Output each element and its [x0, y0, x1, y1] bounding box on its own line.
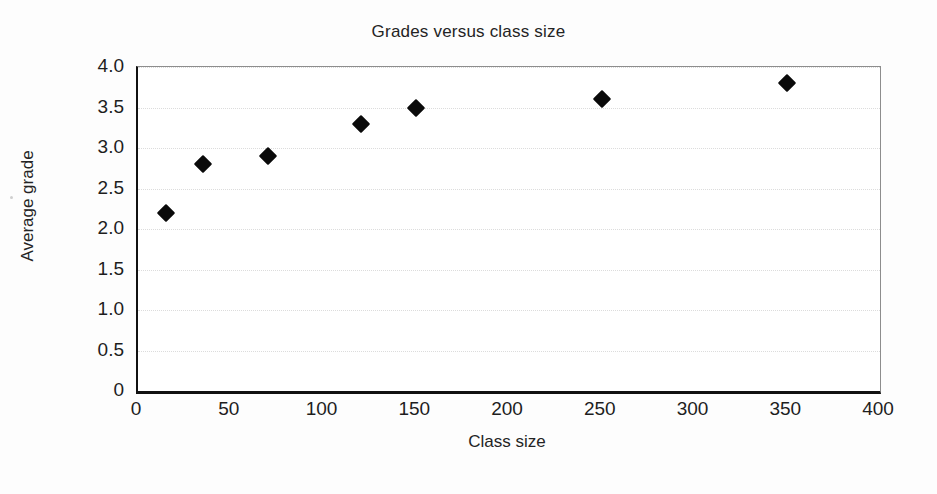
- y-tick-label: 1.0: [64, 298, 124, 320]
- x-tick-label: 0: [96, 398, 176, 420]
- data-point: [351, 114, 369, 132]
- x-tick-label: 300: [653, 398, 733, 420]
- data-point: [778, 74, 796, 92]
- gridline: [138, 310, 880, 311]
- x-tick-label: 350: [745, 398, 825, 420]
- data-point: [407, 98, 425, 116]
- y-tick-label: 2.5: [64, 177, 124, 199]
- x-tick-label: 100: [282, 398, 362, 420]
- y-tick-label: 4.0: [64, 55, 124, 77]
- gridline: [138, 351, 880, 352]
- plot-area: [136, 66, 881, 394]
- gridline: [138, 148, 880, 149]
- data-point: [194, 155, 212, 173]
- gridline: [138, 270, 880, 271]
- scan-artifact: [10, 196, 13, 199]
- x-tick-label: 400: [838, 398, 918, 420]
- y-axis-tick-labels: 00.51.01.52.02.53.03.54.0: [60, 66, 124, 390]
- chart-figure: Grades versus class size 00.51.01.52.02.…: [0, 0, 937, 494]
- x-tick-label: 150: [374, 398, 454, 420]
- chart-title: Grades versus class size: [0, 22, 937, 42]
- gridline: [138, 108, 880, 109]
- y-tick-label: 3.0: [64, 136, 124, 158]
- data-point: [593, 90, 611, 108]
- y-tick-label: 0.5: [64, 339, 124, 361]
- x-axis-title: Class size: [136, 432, 878, 452]
- gridline: [138, 67, 880, 68]
- x-axis-tick-labels: 050100150200250300350400: [136, 398, 878, 428]
- x-tick-label: 250: [560, 398, 640, 420]
- x-tick-label: 50: [189, 398, 269, 420]
- y-axis-title: Average grade: [18, 116, 38, 296]
- y-tick-label: 3.5: [64, 96, 124, 118]
- x-tick-label: 200: [467, 398, 547, 420]
- gridline: [138, 229, 880, 230]
- y-tick-label: 2.0: [64, 217, 124, 239]
- y-tick-label: 1.5: [64, 258, 124, 280]
- data-point: [259, 147, 277, 165]
- gridline: [138, 189, 880, 190]
- data-point: [157, 204, 175, 222]
